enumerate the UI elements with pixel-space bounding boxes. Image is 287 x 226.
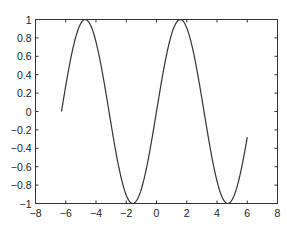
x-tick-label: −6 [60, 207, 72, 219]
y-tick-label: 0.6 [17, 50, 32, 62]
x-tick-label: 2 [184, 207, 190, 219]
y-tick-label: −0.6 [11, 161, 32, 173]
axes-group: −8−6−4−20246810.80.60.40.20−0.2−0.4−0.6−… [11, 14, 281, 219]
x-tick-label: 6 [244, 207, 250, 219]
y-tick-label: 0 [26, 106, 32, 118]
y-tick-label: −0.4 [11, 142, 32, 154]
y-tick-label: 1 [26, 14, 32, 26]
x-tick-label: −4 [90, 207, 102, 219]
y-tick-label: 0.4 [17, 69, 32, 81]
y-tick-label: −0.2 [11, 124, 32, 136]
y-tick-label: −0.8 [11, 179, 32, 191]
y-tick-label: −1 [20, 198, 32, 210]
y-tick-label: 0.8 [17, 32, 32, 44]
sine-curve [61, 20, 247, 204]
x-tick-label: 8 [275, 207, 281, 219]
x-tick-label: 4 [214, 207, 220, 219]
x-tick-label: 0 [154, 207, 160, 219]
x-tick-label: −2 [120, 207, 132, 219]
sine-plot: −8−6−4−20246810.80.60.40.20−0.2−0.4−0.6−… [0, 0, 287, 226]
y-tick-label: 0.2 [17, 87, 32, 99]
